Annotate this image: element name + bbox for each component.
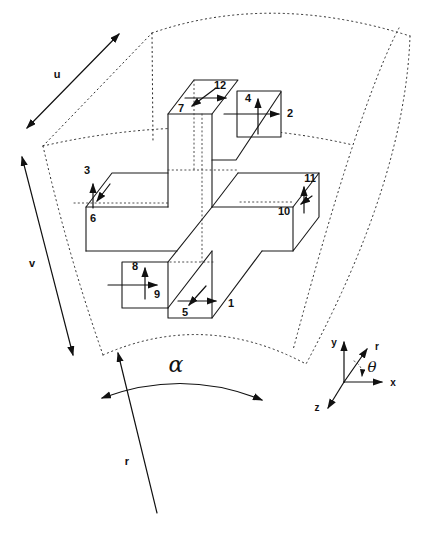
u-dimension-arrow: u xyxy=(27,34,119,128)
radius-label: r xyxy=(125,455,130,467)
arrow-label-3: 3 xyxy=(84,164,90,176)
arrow-label-7: 7 xyxy=(178,102,184,114)
arrow-label-1: 1 xyxy=(228,297,234,309)
axis-label-y: y xyxy=(331,337,337,348)
axis-label-z: z xyxy=(315,402,320,413)
radius-line: r xyxy=(118,353,157,513)
theta-label: θ xyxy=(367,358,376,376)
alpha-angle-arc: α xyxy=(102,352,262,400)
arrow-label-6: 6 xyxy=(90,212,96,224)
arrow-label-9: 9 xyxy=(154,288,160,300)
u-dimension-label: u xyxy=(54,68,61,80)
alpha-label: α xyxy=(169,352,184,377)
arrow-label-10: 10 xyxy=(278,205,290,217)
v-dimension-label: v xyxy=(29,257,36,269)
coordinate-triad: y x z r θ xyxy=(315,337,397,413)
cross-solid-faces xyxy=(86,80,319,318)
figure-canvas: 1 2 3 4 5 6 7 8 9 10 11 12 u v xyxy=(0,0,427,533)
v-dimension-arrow: v xyxy=(22,157,73,355)
arrow-label-5: 5 xyxy=(182,306,188,318)
axis-label-x: x xyxy=(390,377,396,388)
arrow-label-4: 4 xyxy=(245,92,252,104)
arrow-label-11: 11 xyxy=(304,172,316,184)
arrow-label-8: 8 xyxy=(132,260,138,272)
stress-element-diagram: 1 2 3 4 5 6 7 8 9 10 11 12 u v xyxy=(0,0,427,533)
arrow-label-2: 2 xyxy=(287,107,293,119)
axis-label-r: r xyxy=(375,341,379,352)
arrow-label-12: 12 xyxy=(214,79,226,91)
